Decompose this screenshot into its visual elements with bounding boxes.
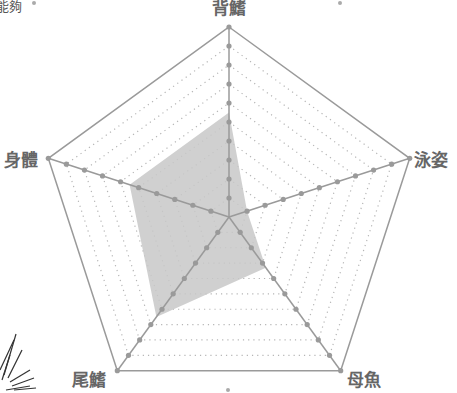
axis-tick-dot bbox=[353, 173, 358, 178]
axis-tick-dot bbox=[215, 230, 220, 235]
axis-tick-dot bbox=[335, 179, 340, 184]
axis-tick-dot bbox=[282, 291, 287, 296]
stray-dot bbox=[226, 388, 230, 392]
radar-chart bbox=[0, 0, 457, 393]
axis-label: 身體 bbox=[4, 146, 38, 171]
axis-tick-dot bbox=[327, 353, 332, 358]
axis-tick-dot bbox=[118, 179, 123, 184]
axis-tick-dot bbox=[305, 322, 310, 327]
axis-tick-dot bbox=[100, 173, 105, 178]
axis-tick-dot bbox=[126, 353, 131, 358]
axis-tick-dot bbox=[299, 191, 304, 196]
data-area bbox=[130, 113, 266, 317]
axis-label: 母魚 bbox=[347, 366, 381, 391]
axis-tick-dot bbox=[208, 209, 213, 214]
axis-tick-dot bbox=[281, 197, 286, 202]
axis-tick-dot bbox=[226, 157, 231, 162]
axis-label: 泳姿 bbox=[414, 146, 448, 171]
axis-tick-dot bbox=[338, 368, 343, 373]
axis-tick-dot bbox=[271, 276, 276, 281]
axis-tick-dot bbox=[293, 307, 298, 312]
axis-tick-dot bbox=[172, 197, 177, 202]
axis-tick-dot bbox=[115, 368, 120, 373]
axis-tick-dot bbox=[204, 245, 209, 250]
axis-tick-dot bbox=[137, 337, 142, 342]
axis-tick-dot bbox=[136, 185, 141, 190]
axis-label: 背鰭 bbox=[212, 0, 246, 19]
axis-tick-dot bbox=[171, 291, 176, 296]
axis-tick-dot bbox=[407, 156, 412, 161]
axis-tick-dot bbox=[371, 167, 376, 172]
stray-dot bbox=[338, 1, 342, 5]
axis-tick-dot bbox=[316, 337, 321, 342]
axis-tick-dot bbox=[182, 276, 187, 281]
axis-label: 尾鰭 bbox=[72, 366, 106, 391]
axis-tick-dot bbox=[226, 138, 231, 143]
axis-tick-dot bbox=[193, 261, 198, 266]
axis-tick-dot bbox=[159, 307, 164, 312]
axis-tick-dot bbox=[190, 203, 195, 208]
axis-tick-dot bbox=[148, 322, 153, 327]
axis-tick-dot bbox=[249, 245, 254, 250]
axis-tick-dot bbox=[263, 203, 268, 208]
axis-tick-dot bbox=[226, 176, 231, 181]
axis-tick-dot bbox=[46, 156, 51, 161]
axis-tick-dot bbox=[82, 167, 87, 172]
axis-tick-dot bbox=[226, 81, 231, 86]
axis-tick-dot bbox=[226, 119, 231, 124]
axis-tick-dot bbox=[389, 162, 394, 167]
axis-tick-dot bbox=[226, 62, 231, 67]
axis-tick-dot bbox=[226, 24, 231, 29]
axis-tick-dot bbox=[226, 43, 231, 48]
axis-tick-dot bbox=[64, 162, 69, 167]
axis-tick-dot bbox=[154, 191, 159, 196]
axis-tick-dot bbox=[317, 185, 322, 190]
axis-tick-dot bbox=[260, 261, 265, 266]
stray-dot bbox=[32, 1, 36, 5]
axis-tick-dot bbox=[238, 230, 243, 235]
axis-tick-dot bbox=[244, 209, 249, 214]
feather-decoration-icon bbox=[0, 320, 60, 393]
axis-tick-dot bbox=[226, 100, 231, 105]
axis-tick-dot bbox=[226, 195, 231, 200]
